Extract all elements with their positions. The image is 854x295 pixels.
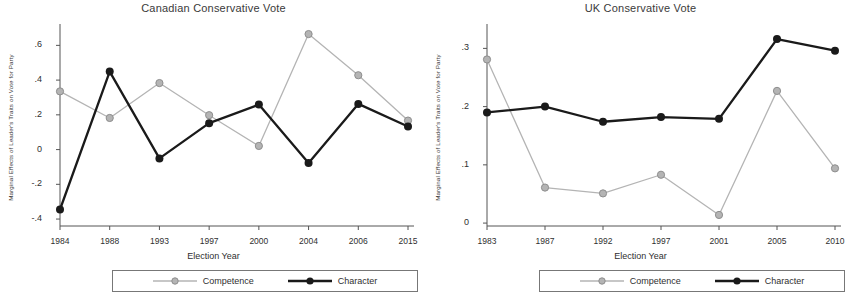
data-point-competence — [255, 142, 262, 149]
data-point-competence — [599, 190, 606, 197]
data-point-competence — [156, 79, 163, 86]
x-tick-label: 1992 — [583, 236, 623, 246]
data-point-character — [305, 159, 313, 167]
y-tick-label: .2 — [18, 109, 42, 119]
data-point-character — [56, 206, 64, 214]
plot-area-right — [479, 22, 841, 232]
data-point-competence — [106, 114, 113, 121]
legend-item-character-left: Character — [288, 276, 378, 286]
legend-left: Competence Character — [112, 270, 418, 292]
x-tick-label: 2001 — [699, 236, 739, 246]
y-axis-label-right: Marginal Effects of Leader's Traits on V… — [429, 20, 445, 235]
data-point-character — [483, 108, 491, 116]
x-tick-label: 1987 — [525, 236, 565, 246]
chart-svg — [52, 22, 414, 232]
series-line-character — [487, 39, 835, 122]
x-tick-label: 1997 — [189, 236, 229, 246]
series-line-competence — [487, 59, 835, 214]
legend-swatch-character-right — [715, 276, 759, 286]
data-point-competence — [56, 88, 63, 95]
data-point-character — [599, 118, 607, 126]
x-tick-label: 2005 — [757, 236, 797, 246]
y-tick-label: -.4 — [18, 213, 42, 223]
x-tick-label: 1988 — [90, 236, 130, 246]
y-axis-label-right-text: Marginal Effects of Leader's Traits on V… — [434, 54, 441, 200]
legend-item-competence-left: Competence — [153, 276, 254, 286]
data-point-character — [541, 103, 549, 111]
data-point-character — [106, 68, 114, 76]
x-tick-label: 2010 — [815, 236, 854, 246]
data-point-competence — [541, 184, 548, 191]
data-point-character — [831, 47, 839, 55]
legend-label-character-left: Character — [338, 276, 378, 286]
y-tick-label: .1 — [445, 159, 469, 169]
x-tick-label: 1993 — [139, 236, 179, 246]
chart-panel-uk: UK Conservative Vote Marginal Effects of… — [427, 0, 854, 295]
data-point-competence — [831, 165, 838, 172]
x-tick-label: 2015 — [388, 236, 428, 246]
chart-title-left: Canadian Conservative Vote — [0, 2, 427, 14]
data-point-competence — [773, 87, 780, 94]
y-tick-label: .6 — [18, 39, 42, 49]
data-point-competence — [305, 30, 312, 37]
data-point-competence — [657, 171, 664, 178]
legend-swatch-competence-right — [580, 276, 624, 286]
x-axis-label-left: Election Year — [0, 251, 427, 261]
legend-swatch-competence-left — [153, 276, 197, 286]
x-axis-label-right: Election Year — [427, 251, 854, 261]
chart-panel-canadian: Canadian Conservative Vote Marginal Effe… — [0, 0, 427, 295]
x-tick-label: 2006 — [338, 236, 378, 246]
plot-area-left — [52, 22, 414, 232]
y-tick-label: .3 — [445, 42, 469, 52]
x-tick-label: 2000 — [239, 236, 279, 246]
series-line-competence — [60, 34, 408, 146]
data-point-character — [205, 119, 213, 127]
data-point-competence — [206, 112, 213, 119]
legend-item-character-right: Character — [715, 276, 805, 286]
x-tick-label: 1997 — [641, 236, 681, 246]
y-tick-label: 0 — [445, 217, 469, 227]
y-tick-label: -.2 — [18, 178, 42, 188]
chart-svg — [479, 22, 841, 232]
legend-label-competence-left: Competence — [203, 276, 254, 286]
legend-label-competence-right: Competence — [630, 276, 681, 286]
data-point-competence — [715, 211, 722, 218]
y-tick-label: 0 — [18, 144, 42, 154]
data-point-character — [404, 122, 412, 130]
data-point-character — [354, 100, 362, 108]
data-point-character — [255, 101, 263, 109]
data-point-character — [657, 113, 665, 121]
legend-label-character-right: Character — [765, 276, 805, 286]
data-point-competence — [483, 56, 490, 63]
legend-item-competence-right: Competence — [580, 276, 681, 286]
chart-title-right: UK Conservative Vote — [427, 2, 854, 14]
series-line-character — [60, 72, 408, 210]
y-tick-label: .2 — [445, 101, 469, 111]
x-tick-label: 1984 — [40, 236, 80, 246]
data-point-competence — [355, 72, 362, 79]
y-axis-label-left-text: Marginal Effects of Leader's Traits on V… — [7, 54, 14, 200]
data-point-character — [773, 35, 781, 43]
y-tick-label: .4 — [18, 74, 42, 84]
x-tick-label: 1983 — [467, 236, 507, 246]
x-tick-label: 2004 — [289, 236, 329, 246]
data-point-character — [155, 154, 163, 162]
y-axis-label-left: Marginal Effects of Leader's Traits on V… — [2, 20, 18, 235]
legend-swatch-character-left — [288, 276, 332, 286]
data-point-character — [715, 115, 723, 123]
legend-right: Competence Character — [539, 270, 845, 292]
figure-root: Canadian Conservative Vote Marginal Effe… — [0, 0, 854, 295]
